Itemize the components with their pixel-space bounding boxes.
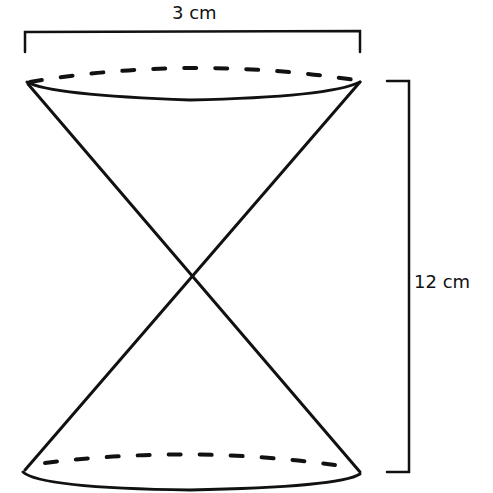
height-label: 12 cm bbox=[414, 271, 470, 292]
bottom-ellipse-front bbox=[23, 472, 360, 490]
width-dimension-bracket bbox=[25, 31, 360, 52]
top-ellipse-front bbox=[27, 82, 360, 100]
double-cone-diagram: 3 cm 12 cm bbox=[0, 0, 493, 493]
top-ellipse-back bbox=[30, 68, 355, 82]
height-dimension-bracket bbox=[387, 81, 409, 472]
cone-drawing bbox=[0, 0, 493, 493]
width-label: 3 cm bbox=[172, 2, 217, 23]
bottom-ellipse-back bbox=[45, 454, 335, 465]
cone-side-left bbox=[28, 84, 360, 472]
